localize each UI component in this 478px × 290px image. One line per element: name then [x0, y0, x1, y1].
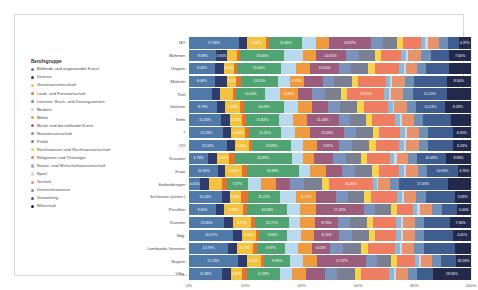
bar-segment[interactable]	[416, 191, 426, 203]
bar-segment[interactable]	[285, 243, 298, 255]
bar-segment[interactable]	[421, 255, 432, 267]
legend-item[interactable]: Militär	[31, 114, 159, 122]
bar-segment[interactable]	[408, 50, 421, 62]
legend-item[interactable]: Technik	[31, 178, 159, 186]
bar-segment[interactable]	[379, 127, 400, 139]
bar-segment[interactable]	[352, 76, 359, 88]
bar-segment[interactable]	[295, 127, 310, 139]
bar-segment[interactable]	[356, 127, 372, 139]
bar-segment[interactable]: 17.23%	[189, 255, 238, 267]
bar-segment[interactable]	[417, 268, 432, 280]
bar-segment[interactable]	[432, 204, 442, 216]
bar-segment[interactable]	[227, 140, 235, 152]
bar-segment[interactable]	[392, 76, 405, 88]
bar-segment[interactable]: 3.60%	[224, 63, 234, 75]
bar-segment[interactable]: 5.00%	[235, 140, 249, 152]
bar-segment[interactable]	[431, 50, 450, 62]
bar-segment[interactable]	[346, 153, 361, 165]
bar-segment[interactable]	[372, 114, 395, 126]
bar-segment[interactable]: 9.08%	[189, 76, 215, 88]
bar-segment[interactable]	[375, 204, 390, 216]
bar-segment[interactable]: 7.61%	[317, 140, 338, 152]
bar-segment[interactable]	[215, 76, 228, 88]
bar-segment[interactable]	[340, 101, 357, 113]
bar-segment[interactable]	[419, 140, 428, 152]
bar-segment[interactable]	[428, 140, 453, 152]
bar-segment[interactable]: 8.73%	[315, 217, 339, 229]
bar-segment[interactable]	[352, 140, 369, 152]
bar-segment[interactable]: 15.67%	[189, 230, 233, 242]
bar-segment[interactable]: 8.50%	[447, 76, 471, 88]
bar-segment[interactable]	[298, 243, 312, 255]
bar-segment[interactable]	[364, 101, 388, 113]
bar-segment[interactable]	[215, 63, 224, 75]
bar-segment[interactable]	[224, 217, 233, 229]
bar-segment[interactable]	[343, 243, 362, 255]
bar-segment[interactable]: 4.37%	[459, 37, 471, 49]
bar-segment[interactable]: 13.20%	[347, 88, 384, 100]
bar-segment[interactable]	[217, 101, 226, 113]
bar-segment[interactable]	[442, 204, 457, 216]
legend-item[interactable]: Musik und darstellende Kunst	[31, 122, 159, 130]
bar-segment[interactable]	[376, 140, 400, 152]
bar-segment[interactable]	[220, 88, 233, 100]
bar-segment[interactable]: 6.73%	[290, 76, 304, 88]
stacked-bar[interactable]: 13.79%5.77%9.97%6.62%	[189, 243, 471, 255]
bar-segment[interactable]	[361, 243, 368, 255]
bar-segment[interactable]	[303, 140, 317, 152]
bar-segment[interactable]: 11.41%	[249, 127, 281, 139]
bar-segment[interactable]	[424, 217, 450, 229]
bar-segment[interactable]: 12.19%	[189, 127, 223, 139]
bar-segment[interactable]: 11.82%	[246, 114, 279, 126]
bar-segment[interactable]: 6.57%	[233, 217, 251, 229]
bar-segment[interactable]: 4.00%	[189, 178, 200, 190]
bar-segment[interactable]: 7.56%	[450, 217, 470, 229]
bar-segment[interactable]	[377, 255, 391, 267]
legend-item[interactable]: Sport	[31, 170, 159, 178]
bar-segment[interactable]	[312, 101, 328, 113]
bar-segment[interactable]	[298, 101, 312, 113]
bar-segment[interactable]: 12.90%	[189, 217, 224, 229]
legend-item[interactable]: Literatur, Buch- und Zeitungswesen	[31, 98, 159, 106]
bar-segment[interactable]: 9.60%	[189, 204, 216, 216]
stacked-bar[interactable]: 11.16%3.90%11.22%6.77%5.59%	[189, 191, 471, 203]
bar-segment[interactable]	[428, 37, 440, 49]
bar-segment[interactable]: 5.00%	[457, 204, 471, 216]
bar-segment[interactable]	[227, 50, 237, 62]
bar-segment[interactable]	[408, 268, 417, 280]
bar-segment[interactable]	[350, 114, 366, 126]
bar-segment[interactable]	[403, 217, 415, 229]
bar-segment[interactable]	[396, 268, 408, 280]
bar-segment[interactable]	[371, 37, 383, 49]
bar-segment[interactable]	[303, 153, 315, 165]
bar-segment[interactable]	[397, 153, 408, 165]
bar-segment[interactable]	[447, 88, 471, 100]
bar-segment[interactable]	[421, 50, 431, 62]
bar-segment[interactable]	[290, 178, 304, 190]
bar-segment[interactable]	[304, 76, 323, 88]
stacked-bar[interactable]: 6.78%4.30%20.35%10.49%8.83%	[189, 153, 471, 165]
bar-segment[interactable]	[417, 63, 426, 75]
legend-item[interactable]: Bildende und angewandte Kunst	[31, 65, 159, 73]
bar-segment[interactable]	[325, 88, 341, 100]
bar-segment[interactable]	[397, 255, 415, 267]
bar-segment[interactable]: 10.13%	[416, 101, 445, 113]
bar-segment[interactable]	[344, 127, 356, 139]
bar-segment[interactable]	[426, 63, 449, 75]
bar-segment[interactable]: 5.00%	[242, 230, 256, 242]
bar-segment[interactable]: 11.44%	[307, 114, 339, 126]
bar-segment[interactable]: 17.66%	[189, 37, 239, 49]
legend-item[interactable]: Sozial- und Wirtschaftswissenschaft	[31, 162, 159, 170]
bar-segment[interactable]: 15.40%	[329, 178, 372, 190]
bar-segment[interactable]: 8.99%	[264, 255, 289, 267]
bar-segment[interactable]	[228, 243, 237, 255]
bar-segment[interactable]	[310, 165, 326, 177]
stacked-bar[interactable]: 15.67%5.00%9.68%8.70%4.41%	[189, 230, 471, 242]
bar-segment[interactable]: 17.37%	[317, 255, 366, 267]
bar-segment[interactable]	[299, 165, 311, 177]
bar-segment[interactable]: 4.15%	[231, 268, 243, 280]
bar-segment[interactable]	[303, 255, 317, 267]
bar-segment[interactable]	[189, 88, 212, 100]
bar-segment[interactable]	[361, 268, 389, 280]
bar-segment[interactable]: 11.83%	[189, 268, 222, 280]
